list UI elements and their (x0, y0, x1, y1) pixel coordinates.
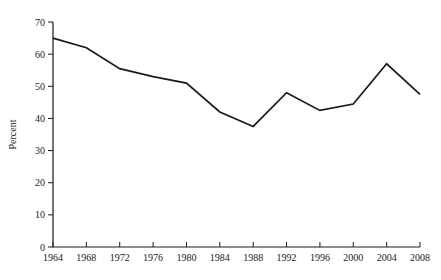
axes (53, 22, 420, 247)
x-tick-label: 1976 (143, 252, 163, 263)
x-tick-label: 1968 (76, 252, 96, 263)
y-tick-label: 0 (40, 242, 45, 253)
y-tick-label: 70 (35, 17, 45, 28)
x-tick-label: 1992 (277, 252, 297, 263)
y-tick-label: 30 (35, 145, 45, 156)
data-series (53, 38, 420, 126)
x-tick-label: 2004 (377, 252, 397, 263)
chart-figure: 010203040506070 196419681972197619801984… (0, 0, 441, 280)
y-tick-label: 60 (35, 49, 45, 60)
x-tick-label: 1984 (210, 252, 230, 263)
y-tick-label: 10 (35, 209, 45, 220)
y-tick-label: 20 (35, 177, 45, 188)
x-tick-label: 1980 (176, 252, 196, 263)
x-axis-ticks: 1964196819721976198019841988199219962000… (43, 242, 430, 263)
y-tick-label: 50 (35, 81, 45, 92)
x-tick-label: 1972 (110, 252, 130, 263)
x-tick-label: 1996 (310, 252, 330, 263)
y-axis-title: Percent (7, 119, 18, 149)
x-tick-label: 1964 (43, 252, 63, 263)
axis-spines (53, 22, 420, 247)
x-tick-label: 2008 (410, 252, 430, 263)
series-line (53, 38, 420, 126)
x-tick-label: 2000 (343, 252, 363, 263)
y-axis-title-text: Percent (7, 119, 18, 149)
y-axis-ticks: 010203040506070 (35, 17, 53, 253)
line-chart-plot: 010203040506070 196419681972197619801984… (0, 0, 441, 280)
x-tick-label: 1988 (243, 252, 263, 263)
y-tick-label: 40 (35, 113, 45, 124)
